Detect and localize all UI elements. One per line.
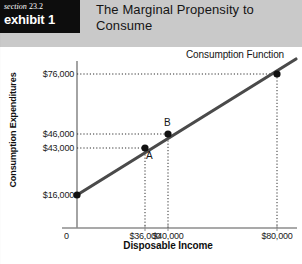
- section-line: section 23.2: [4, 2, 80, 12]
- data-point-80000: [273, 70, 280, 77]
- section-number: 23.2: [29, 2, 43, 11]
- chart-container: Consumption Expenditures $76,000 $46,000…: [0, 47, 302, 264]
- x-axis-title: Disposable Income: [60, 240, 276, 251]
- ytick-label-46000: $46,000: [22, 129, 74, 139]
- point-a-label: A: [146, 150, 153, 161]
- ytick-label-43000: $43,000: [22, 143, 74, 153]
- ytick-label-16000: $16,000: [22, 190, 74, 200]
- data-point-b: [164, 130, 171, 137]
- page-title: The Marginal Propensity to Consume: [96, 2, 296, 34]
- exhibit-number-label: exhibit 1: [4, 12, 80, 27]
- point-b-label: B: [164, 117, 171, 128]
- y-axis-title: Consumption Expenditures: [8, 55, 18, 205]
- section-word-label: section: [4, 2, 27, 11]
- series-label-consumption-function: Consumption Function: [186, 49, 284, 60]
- exhibit-page: section 23.2 exhibit 1 The Marginal Prop…: [0, 0, 302, 264]
- consumption-function-line: [77, 59, 296, 195]
- exhibit-tag: section 23.2 exhibit 1: [0, 0, 80, 33]
- ytick-label-76000: $76,000: [22, 69, 74, 79]
- data-point-intercept: [73, 191, 80, 198]
